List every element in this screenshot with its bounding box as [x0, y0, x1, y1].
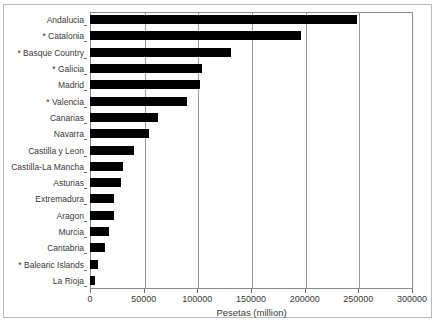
y-axis-tick [84, 58, 87, 59]
x-axis-tick [90, 289, 91, 293]
bar [90, 243, 105, 252]
bar-row [90, 64, 413, 74]
y-axis-label: * Valencia [46, 97, 84, 107]
bar [90, 31, 301, 40]
y-axis-label: * Galicia [52, 64, 84, 74]
bar [90, 113, 158, 122]
bar-row [90, 80, 413, 90]
y-axis-tick [84, 270, 87, 271]
bar [90, 260, 98, 269]
y-axis-label: La Rioja [53, 276, 84, 286]
y-axis-tick [84, 204, 87, 205]
bar-row [90, 113, 413, 123]
bar-row [90, 31, 413, 41]
bar-row [90, 15, 413, 25]
bar [90, 129, 149, 138]
y-axis-label: * Catalonia [42, 31, 84, 41]
y-axis-tick [84, 237, 87, 238]
bar-row [90, 227, 413, 237]
bar [90, 162, 123, 171]
x-axis-tick-label: 150000 [236, 294, 266, 304]
y-axis-tick [84, 253, 87, 254]
y-axis-category-labels: Andalucia* Catalonia* Basque Country* Ga… [0, 12, 87, 289]
y-axis-tick [84, 74, 87, 75]
y-axis-label: Asturias [53, 178, 84, 188]
bar-row [90, 276, 413, 286]
bar-row [90, 178, 413, 188]
y-axis-label: Andalucia [47, 15, 84, 25]
x-axis-tick [305, 289, 306, 293]
y-axis-tick [84, 123, 87, 124]
x-axis-tick [412, 289, 413, 293]
bar [90, 80, 200, 89]
x-axis-tick [358, 289, 359, 293]
x-axis-tick [251, 289, 252, 293]
bar [90, 64, 202, 73]
x-axis-tick-label: 0 [87, 294, 92, 304]
y-axis-tick [84, 286, 87, 287]
x-axis-tick-label: 300000 [397, 294, 427, 304]
y-axis-tick [84, 188, 87, 189]
y-axis-label: * Balearic Islands [18, 260, 84, 270]
y-axis-tick [84, 156, 87, 157]
y-axis-label: Navarra [54, 129, 84, 139]
y-axis-tick [84, 25, 87, 26]
y-axis-label: Madrid [58, 80, 84, 90]
y-axis-label: Cantabria [47, 243, 84, 253]
bar-row [90, 260, 413, 270]
bar-row [90, 129, 413, 139]
y-axis-tick [84, 172, 87, 173]
y-axis-label: Castilla-La Mancha [11, 162, 84, 172]
bars-container [90, 12, 413, 289]
y-axis-label: Canarias [50, 113, 84, 123]
y-axis-label: * Basque Country [17, 48, 84, 58]
bar [90, 48, 231, 57]
x-axis-tick-label: 200000 [290, 294, 320, 304]
y-axis-label: Extremadura [35, 194, 84, 204]
x-axis-tick-label: 50000 [131, 294, 156, 304]
bar-row [90, 146, 413, 156]
bar-row [90, 243, 413, 253]
bar [90, 97, 187, 106]
bar-row [90, 211, 413, 221]
bar [90, 194, 114, 203]
bar-row [90, 162, 413, 172]
bar [90, 15, 357, 24]
y-axis-label: Aragon [57, 211, 84, 221]
bar-row [90, 194, 413, 204]
x-axis-tick-label: 250000 [343, 294, 373, 304]
x-axis-title: Pesetas (million) [90, 307, 413, 318]
y-axis-tick [84, 90, 87, 91]
x-axis-tick [144, 289, 145, 293]
y-axis-tick [84, 41, 87, 42]
bar [90, 227, 109, 236]
x-axis-tick [197, 289, 198, 293]
bar-row [90, 97, 413, 107]
bar-row [90, 48, 413, 58]
x-axis-tick-label: 100000 [182, 294, 212, 304]
y-axis-label: Murcia [58, 227, 84, 237]
y-axis-tick [84, 107, 87, 108]
bar [90, 276, 95, 285]
bar-chart-figure: Andalucia* Catalonia* Basque Country* Ga… [0, 0, 436, 321]
y-axis-tick [84, 139, 87, 140]
bar [90, 211, 114, 220]
bar [90, 178, 121, 187]
y-axis-tick [84, 221, 87, 222]
y-axis-label: Castilla y Leon [28, 146, 84, 156]
bar [90, 146, 134, 155]
